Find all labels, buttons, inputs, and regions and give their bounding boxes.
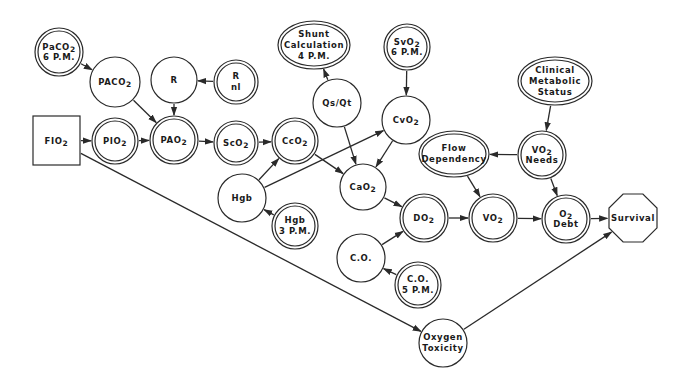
- edge-cao2-to-do2: [384, 198, 401, 207]
- edge-hgb-to-hgb-3pm: [264, 210, 274, 215]
- node-label: 6 P.M.: [43, 52, 75, 62]
- node-label: Needs: [526, 155, 559, 165]
- node-label: Calculation: [284, 40, 344, 50]
- node-pio2: PIO2: [92, 118, 138, 164]
- node-do2: DO2: [400, 194, 448, 242]
- edge-paco2-6pm-to-paco2-alv: [81, 64, 92, 70]
- node-label: Debt: [553, 219, 578, 229]
- edge-paco2-alv-to-pao2: [134, 100, 157, 122]
- edge-co-to-co-5pm: [384, 269, 397, 275]
- node-label: R: [170, 75, 177, 85]
- node-fio2: FIO2: [33, 116, 80, 165]
- node-label: Dependency: [421, 154, 486, 164]
- node-r-nl: Rnl: [214, 60, 258, 104]
- node-label: C.O.: [350, 253, 372, 263]
- node-label: C.O.: [407, 274, 429, 284]
- node-cao2: CaO2: [340, 164, 386, 210]
- node-label: R: [232, 71, 239, 81]
- node-sco2: ScO2: [214, 121, 258, 165]
- node-pao2: PAO2: [150, 116, 198, 164]
- edge-r-nl-to-r: [198, 81, 213, 82]
- node-cvo2: CvO2: [382, 96, 430, 144]
- edge-cvo2-to-cao2: [376, 141, 393, 167]
- node-label: Hgb: [284, 215, 305, 225]
- node-co-5pm: C.O.5 P.M.: [395, 262, 441, 308]
- node-shunt-calc: ShuntCalculation4 P.M.: [278, 21, 350, 69]
- node-o2-debt: O2Debt: [542, 195, 590, 243]
- node-flow-dependency: FlowDependency: [419, 131, 489, 177]
- node-label: 4 P.M.: [298, 51, 330, 61]
- diagram-canvas: PaCO26 P.M.PACO2RRnlShuntCalculation4 P.…: [0, 0, 692, 382]
- node-label: Toxicity: [422, 343, 463, 353]
- node-label: Flow: [442, 143, 467, 153]
- edge-oxygen-toxicity-to-survival: [464, 232, 612, 329]
- edge-qs-qt-to-cao2: [344, 127, 356, 164]
- node-cco2: CcO2: [272, 118, 318, 164]
- node-survival: Survival: [609, 194, 657, 242]
- edge-pao2-to-sco2: [199, 141, 213, 142]
- node-hgb: Hgb: [218, 174, 266, 222]
- node-qs-qt: Qs/Qt: [313, 79, 361, 127]
- node-label: Metabolic: [529, 76, 581, 86]
- node-label: 6 P.M.: [391, 47, 423, 57]
- node-vo2: VO2: [469, 194, 517, 242]
- node-label: Oxygen: [423, 332, 463, 342]
- node-clinical-metabolic: ClinicalMetabolicStatus: [518, 57, 592, 105]
- edge-clinical-metabolic-to-vo2-needs: [546, 106, 550, 131]
- node-label: Status: [538, 87, 573, 97]
- node-label: nl: [231, 82, 241, 92]
- node-co: C.O.: [337, 234, 385, 282]
- node-label: Clinical: [535, 65, 575, 75]
- node-hgb-3pm: Hgb3 P.M.: [272, 203, 318, 249]
- node-label: Hgb: [231, 193, 252, 203]
- node-label: 3 P.M.: [279, 226, 311, 236]
- edge-hgb-to-cco2: [259, 159, 279, 180]
- node-label: Qs/Qt: [322, 98, 352, 108]
- node-label: 5 P.M.: [402, 285, 434, 295]
- node-svo2-6pm: SvO26 P.M.: [384, 24, 430, 70]
- node-paco2-6pm: PaCO26 P.M.: [35, 28, 83, 76]
- node-label: Survival: [611, 213, 655, 223]
- node-label: Shunt: [298, 29, 329, 39]
- edge-co-to-do2: [382, 231, 403, 244]
- edge-flow-dependency-to-vo2: [468, 176, 481, 197]
- edge-shunt-calc-to-qs-qt: [324, 69, 328, 80]
- influence-diagram: PaCO26 P.M.PACO2RRnlShuntCalculation4 P.…: [0, 0, 692, 382]
- node-oxygen-toxicity: OxygenToxicity: [419, 319, 467, 367]
- node-r: R: [151, 57, 197, 103]
- edge-vo2-needs-to-o2-debt: [551, 178, 557, 195]
- node-vo2-needs: VO2Needs: [518, 131, 566, 179]
- node-paco2-alv: PACO2: [90, 57, 140, 107]
- nodes-layer: PaCO26 P.M.PACO2RRnlShuntCalculation4 P.…: [33, 21, 657, 367]
